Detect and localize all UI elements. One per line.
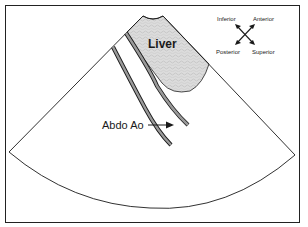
diagram-canvas: Liver Abdo Ao Inferior Anterior Posterio… — [0, 0, 308, 227]
orientation-posterior: Posterior — [216, 49, 240, 55]
aorta-label: Abdo Ao — [102, 119, 144, 131]
orientation-anterior: Anterior — [253, 16, 274, 22]
liver-label: Liver — [148, 37, 177, 51]
orientation-superior: Superior — [252, 49, 275, 55]
orientation-inferior: Inferior — [217, 16, 236, 22]
